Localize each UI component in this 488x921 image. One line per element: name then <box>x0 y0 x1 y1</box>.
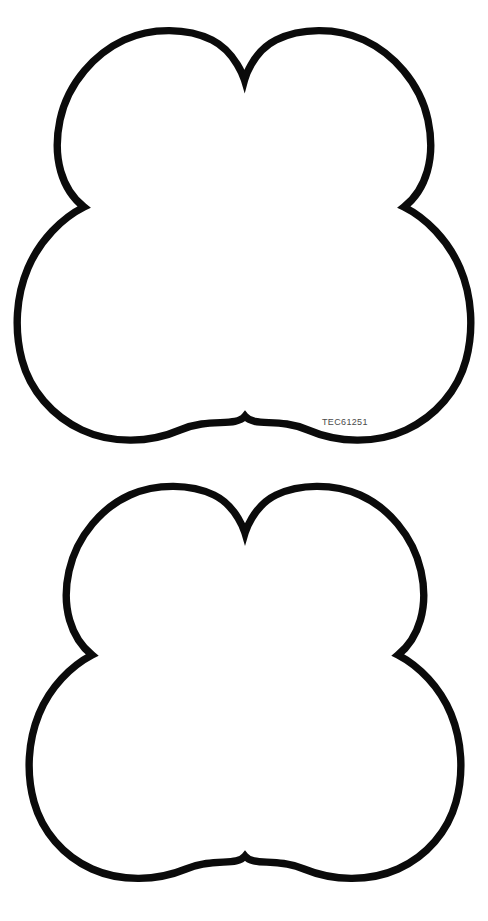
quatrefoil-figure-top: TEC61251 <box>0 0 488 460</box>
part-number-label-top: TEC61251 <box>322 417 368 427</box>
quatrefoil-outline-path-bottom <box>29 486 461 878</box>
drawing-page: TEC61251 TEC61251 <box>0 0 488 921</box>
quatrefoil-outline-svg-bottom <box>0 460 488 921</box>
quatrefoil-outline-svg-top <box>0 0 488 460</box>
quatrefoil-figure-bottom: TEC61251 <box>0 460 488 921</box>
quatrefoil-outline-path-top <box>17 31 471 441</box>
